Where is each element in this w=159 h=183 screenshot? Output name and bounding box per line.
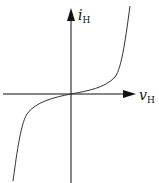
y-axis-label-subscript: H — [82, 15, 90, 25]
y-axis-arrow-icon — [67, 8, 75, 21]
x-axis-label: vH — [139, 88, 155, 105]
x-axis-label-subscript: H — [147, 95, 155, 105]
x-axis-arrow-icon — [123, 90, 136, 98]
y-axis-label: iH — [78, 8, 90, 25]
iv-characteristic-plot — [0, 0, 159, 183]
x-axis-label-text: v — [139, 87, 147, 103]
